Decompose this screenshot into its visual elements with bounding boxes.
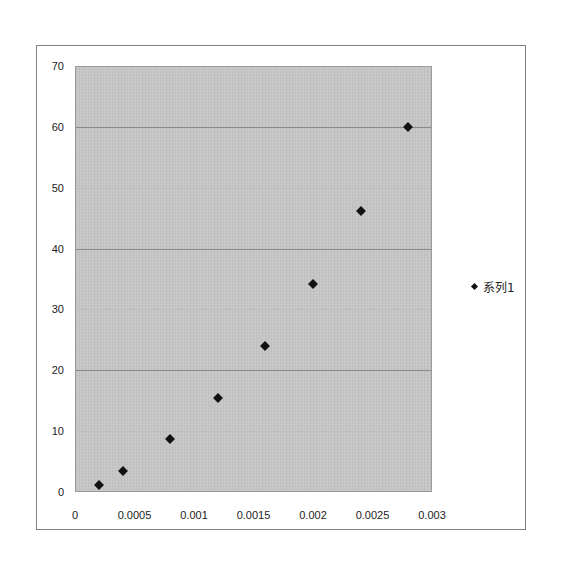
y-tick-label: 50 xyxy=(34,182,64,194)
gridline xyxy=(76,249,431,250)
x-tick-label: 0.002 xyxy=(299,509,327,521)
y-tick-label: 20 xyxy=(34,364,64,376)
gridline xyxy=(76,188,431,189)
legend: 系列1 xyxy=(465,276,525,296)
diamond-marker-icon xyxy=(471,282,478,289)
gridline xyxy=(76,127,431,128)
y-tick-label: 10 xyxy=(34,425,64,437)
x-tick-label: 0.001 xyxy=(180,509,208,521)
gridline xyxy=(76,370,431,371)
y-tick-label: 30 xyxy=(34,303,64,315)
x-tick-label: 0.0025 xyxy=(356,509,390,521)
y-tick-label: 0 xyxy=(34,486,64,498)
x-tick-label: 0.003 xyxy=(418,509,446,521)
y-tick-label: 70 xyxy=(34,60,64,72)
plot-area xyxy=(75,66,432,492)
x-tick-label: 0 xyxy=(72,509,78,521)
legend-label: 系列1 xyxy=(483,278,515,295)
x-tick-label: 0.0015 xyxy=(237,509,271,521)
y-tick-label: 60 xyxy=(34,121,64,133)
gridline xyxy=(76,309,431,310)
gridline xyxy=(76,431,431,432)
x-tick-label: 0.0005 xyxy=(118,509,152,521)
y-tick-label: 40 xyxy=(34,243,64,255)
